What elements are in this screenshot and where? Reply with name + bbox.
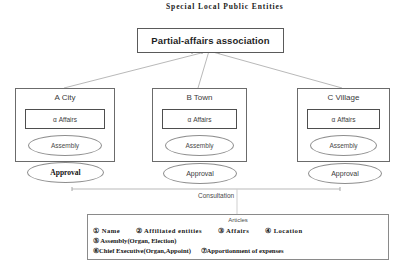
articles-line: ① Name ② Affiliated entities ③ Affairs ④…: [93, 227, 317, 235]
affairs-box: α Affairs: [162, 109, 237, 129]
diagram-caption: Special Local Public Entities: [166, 2, 286, 12]
assembly-ellipse: Assembly: [28, 135, 102, 156]
municipality-box-a-city: A City α Affairs Assembly: [15, 88, 115, 162]
articles-title: Articles: [88, 217, 388, 223]
article-item: ⑦Apportionment of expenses: [201, 247, 284, 255]
approval-label: Approval: [50, 168, 80, 177]
municipality-box-c-village: C Village α Affairs Assembly: [297, 88, 390, 162]
approval-ellipse-c-village: Approval: [308, 163, 382, 184]
assembly-label: Assembly: [329, 142, 357, 149]
assembly-label: Assembly: [185, 142, 213, 149]
partial-affairs-association-box: Partial-affairs association: [137, 28, 284, 53]
articles-line: ⑥Chief Executive(Organ,Appoint) ⑦Apporti…: [93, 247, 292, 255]
affairs-label: α Affairs: [53, 116, 77, 123]
approval-ellipse-a-city: Approval: [27, 162, 104, 183]
affairs-label: α Affairs: [188, 116, 212, 123]
approval-label: Approval: [331, 170, 359, 177]
assembly-ellipse: Assembly: [310, 135, 377, 156]
consultation-label: Consultation: [198, 192, 234, 199]
affairs-label: α Affairs: [332, 116, 356, 123]
article-item: ③ Affairs: [218, 227, 250, 235]
municipality-name: A City: [16, 93, 114, 102]
municipality-box-b-town: B Town α Affairs Assembly: [152, 88, 247, 162]
article-item: ② Affiliated entities: [136, 227, 202, 235]
municipality-name: C Village: [298, 93, 389, 102]
diagram-canvas: Special Local Public Entities Partial-af…: [0, 0, 401, 269]
assembly-label: Assembly: [51, 142, 79, 149]
article-item: ⑥Chief Executive(Organ,Appoint): [93, 247, 191, 255]
affairs-box: α Affairs: [25, 109, 105, 129]
assembly-ellipse: Assembly: [165, 135, 234, 156]
approval-label: Approval: [186, 170, 214, 177]
association-label: Partial-affairs association: [151, 35, 269, 46]
article-item: ④ Location: [265, 227, 303, 235]
approval-ellipse-b-town: Approval: [163, 163, 237, 184]
article-item: ⑤ Assembly(Organ, Election): [93, 237, 176, 245]
articles-box: Articles ① Name ② Affiliated entities ③ …: [87, 214, 389, 260]
affairs-box: α Affairs: [307, 109, 380, 129]
article-item: ① Name: [93, 227, 120, 235]
articles-line: ⑤ Assembly(Organ, Election): [93, 237, 176, 245]
municipality-name: B Town: [153, 93, 246, 102]
